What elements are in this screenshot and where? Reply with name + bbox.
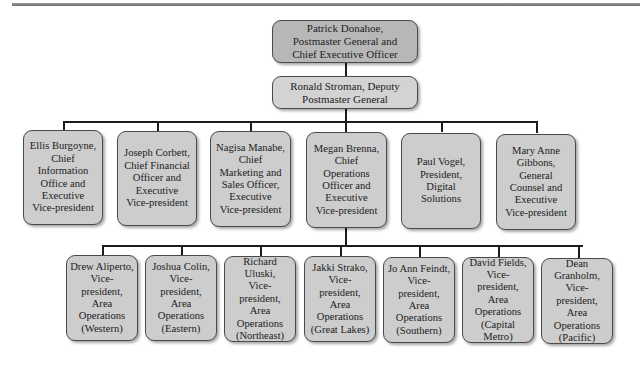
connector-area-drop-2 — [181, 245, 183, 255]
top-rule — [12, 3, 640, 6]
org-node-executive: Paul Vogel, President, Digital Solutions — [401, 133, 481, 229]
connector-exec-drop-2 — [157, 121, 159, 131]
connector-area-drop-5 — [419, 245, 421, 257]
connector-exec-bus — [63, 121, 538, 123]
org-node-executive: Nagisa Manabe, Chief Marketing and Sales… — [210, 131, 291, 227]
connector-deputy-down — [345, 108, 347, 122]
org-node-area-vp: Richard Uluski, Vice-president, Area Ope… — [224, 256, 296, 342]
org-node-area-vp: Jakki Strako, Vice-president, Area Opera… — [304, 256, 376, 342]
connector-ceo-deputy — [345, 62, 347, 76]
org-node-area-vp: Drew Aliperto, Vice-president, Area Oper… — [66, 255, 138, 341]
connector-area-drop-1 — [102, 245, 104, 255]
org-node-area-vp: Joshua Colin, Vice-president, Area Opera… — [145, 255, 217, 341]
connector-exec-drop-4 — [345, 121, 347, 132]
org-node-area-vp: David Fields, Vice-president, Area Opera… — [462, 257, 534, 343]
connector-area-drop-7 — [578, 245, 580, 258]
connector-exec-drop-6 — [536, 121, 538, 133]
connector-exec-drop-5 — [441, 121, 443, 132]
connector-area-drop-4 — [340, 245, 342, 256]
org-node-executive: Joseph Corbett, Chief Financial Officer … — [117, 131, 197, 226]
org-node-ceo: Patrick Donahoe, Postmaster General and … — [272, 20, 418, 63]
connector-exec-drop-1 — [63, 121, 65, 130]
connector-area-drop-6 — [498, 245, 500, 257]
org-node-area-vp: Jo Ann Feindt, Vice-president, Area Oper… — [383, 257, 455, 343]
org-node-area-vp: Dean Granholm, Vice-president, Area Oper… — [541, 258, 613, 344]
connector-exec-drop-3 — [250, 121, 252, 131]
org-node-executive: Mary Anne Gibbons, General Counsel and E… — [496, 134, 576, 230]
connector-area-bus — [102, 245, 583, 247]
org-node-deputy: Ronald Stroman, Deputy Postmaster Genera… — [272, 76, 418, 109]
org-node-executive: Ellis Burgoyne, Chief Information Office… — [23, 130, 103, 225]
connector-coo-down — [345, 227, 347, 246]
connector-area-drop-3 — [260, 245, 262, 256]
org-node-executive: Megan Brenna, Chief Operations Officer a… — [306, 132, 387, 228]
